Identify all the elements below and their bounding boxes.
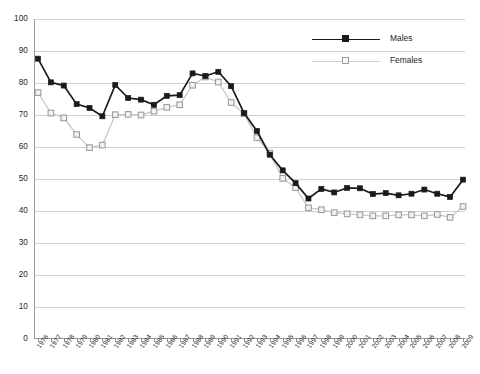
y-axis-tick-label: 70 [0, 111, 28, 119]
data-point-males [267, 152, 272, 157]
data-point-males [332, 190, 337, 195]
data-point-males [422, 187, 427, 192]
data-point-males [383, 191, 388, 196]
y-axis-tick-label: 0 [0, 335, 28, 343]
data-point-females [228, 100, 234, 106]
data-point-males [203, 73, 208, 78]
data-point-females [460, 204, 466, 210]
data-point-males [126, 96, 131, 101]
y-axis-tick-label: 100 [0, 15, 28, 23]
data-point-males [319, 186, 324, 191]
data-point-males [139, 97, 144, 102]
chart-legend: Males Females [312, 29, 442, 73]
data-point-females [87, 145, 93, 151]
data-point-females [112, 112, 118, 118]
data-point-females [319, 207, 325, 213]
data-point-males [229, 84, 234, 89]
data-point-males [293, 181, 298, 186]
data-point-males [370, 192, 375, 197]
data-point-females [100, 142, 106, 148]
data-point-males [113, 82, 118, 87]
line-males [38, 59, 463, 199]
data-point-females [61, 115, 67, 121]
y-axis-tick-label: 90 [0, 47, 28, 55]
data-point-males [151, 102, 156, 107]
data-point-females [164, 105, 170, 111]
data-point-males [306, 196, 311, 201]
data-point-males [435, 191, 440, 196]
y-axis-tick-label: 30 [0, 239, 28, 247]
data-point-males [36, 56, 41, 61]
data-point-males [242, 111, 247, 116]
data-point-males [461, 177, 466, 182]
data-point-males [87, 105, 92, 110]
data-point-females [216, 79, 222, 85]
data-point-females [409, 212, 415, 218]
data-point-females [151, 108, 157, 114]
data-point-males [448, 194, 453, 199]
data-point-males [74, 102, 79, 107]
legend-marker-females [342, 57, 349, 64]
legend-label-males: Males [390, 33, 412, 43]
y-axis-tick-label: 10 [0, 303, 28, 311]
data-point-males [48, 80, 53, 85]
data-point-females [422, 213, 428, 219]
data-point-females [177, 102, 183, 108]
y-axis-tick-label: 60 [0, 143, 28, 151]
y-axis-tick-label: 40 [0, 207, 28, 215]
data-point-females [48, 110, 54, 116]
data-point-males [345, 185, 350, 190]
data-point-females [280, 176, 286, 182]
legend-item-females: Females [312, 51, 442, 73]
data-point-females [190, 82, 196, 88]
data-point-females [370, 213, 376, 219]
data-point-females [434, 212, 440, 218]
data-point-females [138, 112, 144, 118]
data-point-males [190, 71, 195, 76]
data-point-males [254, 129, 259, 134]
y-axis-tick-label: 20 [0, 271, 28, 279]
data-point-females [125, 112, 131, 118]
data-point-males [164, 93, 169, 98]
data-point-males [177, 93, 182, 98]
data-point-males [280, 168, 285, 173]
data-point-females [383, 213, 389, 219]
y-axis-tick-label: 50 [0, 175, 28, 183]
line-chart: 0102030405060708090100 19761977197819791… [0, 0, 480, 374]
legend-marker-males [342, 35, 349, 42]
data-point-females [74, 132, 80, 138]
data-point-females [35, 90, 41, 96]
data-point-females [344, 211, 350, 217]
data-point-males [357, 186, 362, 191]
data-point-males [100, 114, 105, 119]
data-point-females [447, 215, 453, 221]
data-point-males [409, 191, 414, 196]
data-point-females [396, 212, 402, 218]
data-point-males [396, 193, 401, 198]
legend-item-males: Males [312, 29, 442, 51]
y-axis-tick-label: 80 [0, 79, 28, 87]
data-point-females [357, 212, 363, 218]
data-point-females [331, 210, 337, 216]
legend-label-females: Females [390, 55, 422, 65]
data-point-males [61, 83, 66, 88]
data-point-females [306, 205, 312, 211]
data-point-males [216, 69, 221, 74]
